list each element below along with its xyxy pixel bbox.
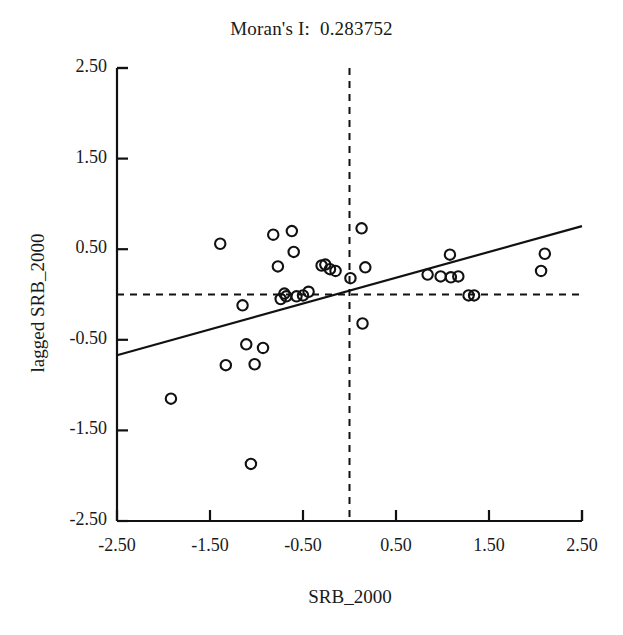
plot-canvas: [0, 0, 623, 635]
scatter-point: [453, 271, 463, 281]
scatter-point: [166, 393, 176, 403]
scatter-point: [435, 271, 445, 281]
scatter-point: [221, 360, 231, 370]
scatter-point: [215, 239, 225, 249]
regression-line: [117, 226, 582, 355]
scatter-point: [356, 223, 366, 233]
scatter-point: [536, 266, 546, 276]
scatter-point: [445, 249, 455, 259]
scatter-point: [540, 249, 550, 259]
scatter-point: [268, 230, 278, 240]
scatter-point: [360, 262, 370, 272]
scatter-point: [249, 359, 259, 369]
scatter-point: [258, 343, 268, 353]
scatter-point: [241, 339, 251, 349]
scatter-point: [357, 318, 367, 328]
scatter-point: [273, 261, 283, 271]
scatter-point: [246, 459, 256, 469]
moran-scatterplot-figure: Moran's I: 0.283752 lagged SRB_2000 SRB_…: [0, 0, 623, 635]
scatter-point: [287, 226, 297, 236]
scatter-points-layer: [166, 223, 550, 469]
scatter-point: [289, 247, 299, 257]
scatter-point: [422, 269, 432, 279]
scatter-point: [237, 300, 247, 310]
